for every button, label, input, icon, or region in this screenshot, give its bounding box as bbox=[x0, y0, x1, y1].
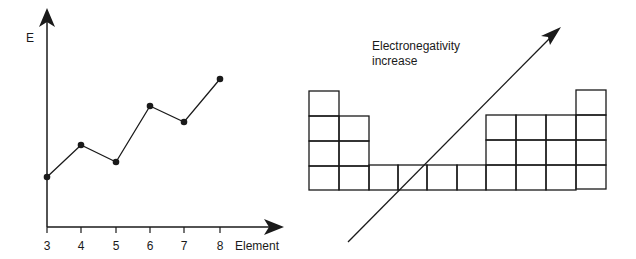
tick-label: 5 bbox=[113, 239, 120, 253]
data-point bbox=[78, 142, 85, 149]
arrow-label-line1: Electronegativity bbox=[372, 39, 460, 53]
x-ticks bbox=[47, 227, 220, 233]
data-point bbox=[217, 76, 224, 83]
tick-label: 3 bbox=[44, 239, 51, 253]
tick-label: 4 bbox=[78, 239, 85, 253]
data-points bbox=[44, 76, 224, 181]
tick-label: 8 bbox=[217, 239, 224, 253]
energy-graph: 3 4 5 6 7 8 Element E bbox=[26, 8, 284, 253]
data-point bbox=[147, 103, 154, 110]
figure: 3 4 5 6 7 8 Element E bbox=[0, 0, 636, 259]
y-axis-label: E bbox=[26, 31, 34, 45]
tick-label: 6 bbox=[147, 239, 154, 253]
arrow-label-line2: increase bbox=[372, 54, 418, 68]
arrow-head-icon bbox=[541, 27, 561, 45]
data-line bbox=[47, 79, 220, 177]
x-axis-label: Element bbox=[235, 239, 280, 253]
data-point bbox=[113, 159, 120, 166]
data-point bbox=[44, 174, 51, 181]
data-point bbox=[181, 119, 188, 126]
tick-label: 7 bbox=[181, 239, 188, 253]
periodic-table-outline bbox=[309, 90, 606, 190]
